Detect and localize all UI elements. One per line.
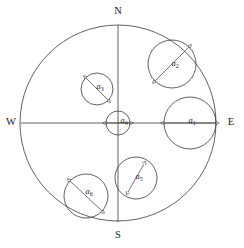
diagram-root: a1a2a3a4a5a6 N S W E (0, 0, 244, 248)
measure-subscript-a1: 1 (193, 120, 196, 126)
measure-label-a6: a6 (85, 186, 92, 197)
inner-circles-group: a1a2a3a4a5a6 (64, 40, 216, 218)
measure-label-a4: a4 (120, 115, 127, 126)
measure-subscript-a5: 5 (140, 176, 143, 182)
circle-packing-figure: a1a2a3a4a5a6 N S W E (0, 0, 244, 248)
cardinal-label-west: W (6, 116, 16, 127)
inner-circle-a3: a3 (81, 73, 113, 105)
cardinal-label-south: S (115, 229, 121, 240)
inner-circle-a2: a2 (148, 40, 196, 88)
measure-label-a1: a1 (188, 115, 195, 126)
measure-label-a5: a5 (135, 171, 142, 182)
inner-circle-a6: a6 (64, 174, 108, 218)
measure-subscript-a4: 4 (125, 120, 128, 126)
cardinal-label-north: N (114, 5, 122, 16)
measure-subscript-a2: 2 (176, 63, 179, 69)
inner-circle-a1: a1 (164, 97, 216, 149)
measure-subscript-a6: 6 (90, 191, 93, 197)
measure-subscript-a3: 3 (101, 86, 104, 92)
measure-label-a2: a2 (171, 58, 178, 69)
cardinal-label-east: E (228, 116, 234, 127)
inner-circle-a5: a5 (115, 157, 157, 199)
measure-label-a3: a3 (96, 81, 103, 92)
